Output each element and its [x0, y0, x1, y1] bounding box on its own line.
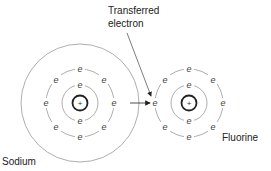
sodium-atom: + e e e e e e e e e e: [21, 44, 139, 162]
electron: e: [210, 75, 215, 85]
transferred-label-line1: Transferred: [108, 5, 159, 16]
sodium-label: Sodium: [2, 156, 36, 167]
ionic-bond-diagram: + e e e e e e e e e e: [0, 0, 271, 171]
electron: e: [53, 75, 58, 85]
electron: e: [186, 116, 191, 126]
electron: e: [43, 98, 48, 108]
electron: e: [220, 98, 225, 108]
electron: e: [77, 80, 82, 90]
fluorine-atom: + e e e e e e e e e e: [150, 64, 228, 142]
electron: e: [77, 116, 82, 126]
electron: e: [111, 98, 116, 108]
electron: e: [162, 75, 167, 85]
electron: e: [186, 80, 191, 90]
electron: e: [77, 64, 82, 74]
label-pointer-arrow: [127, 33, 151, 96]
fluorine-nucleus-plus: +: [187, 99, 192, 108]
electron: e: [53, 122, 58, 132]
electron: e: [210, 122, 215, 132]
fluorine-label: Fluorine: [222, 132, 259, 143]
electron: e: [77, 132, 82, 142]
transferred-electron: e: [152, 98, 157, 108]
electron: e: [101, 75, 106, 85]
transferred-label-line2: electron: [108, 18, 144, 29]
electron: e: [162, 122, 167, 132]
electron: e: [101, 122, 106, 132]
electron: e: [186, 64, 191, 74]
sodium-nucleus-plus: +: [78, 99, 83, 108]
electron: e: [186, 132, 191, 142]
